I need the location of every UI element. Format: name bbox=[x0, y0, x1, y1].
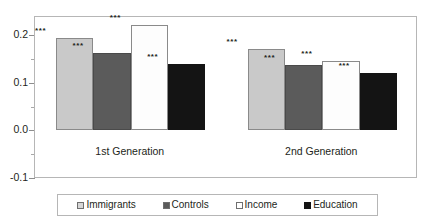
bar-2nd-generation-controls bbox=[285, 65, 322, 130]
legend-swatch-icon bbox=[77, 202, 84, 209]
significance-marker: *** bbox=[134, 53, 171, 61]
bar-chart: 0.20.10.0-0.1 ************************ 1… bbox=[0, 0, 432, 223]
legend-item-income[interactable]: Income bbox=[236, 200, 278, 210]
bar-1st-generation-education bbox=[168, 64, 205, 131]
y-tick-major bbox=[29, 178, 35, 179]
significance-marker: *** bbox=[251, 54, 288, 62]
y-tick-label-text: 0.0 bbox=[0, 124, 28, 135]
category-label-2nd-generation: 2nd Generation bbox=[226, 146, 418, 157]
bar-1st-generation-immigrants bbox=[56, 38, 93, 130]
significance-marker: *** bbox=[288, 50, 325, 58]
y-tick-label: 0.0 bbox=[0, 124, 28, 135]
y-tick-label-text: 0.1 bbox=[0, 77, 28, 88]
significance-marker: *** bbox=[59, 42, 96, 50]
bar-2nd-generation-education bbox=[360, 73, 397, 130]
legend-label: Immigrants bbox=[86, 200, 135, 210]
legend-swatch-icon bbox=[304, 202, 311, 209]
legend-swatch-icon bbox=[163, 202, 170, 209]
legend-item-immigrants[interactable]: Immigrants bbox=[77, 200, 135, 210]
significance-marker: *** bbox=[97, 14, 134, 22]
significance-marker: *** bbox=[214, 38, 251, 46]
y-tick-label: 0.1 bbox=[0, 77, 28, 88]
legend-swatch-icon bbox=[236, 202, 243, 209]
bar-1st-generation-income bbox=[131, 25, 168, 131]
legend-label: Income bbox=[245, 200, 278, 210]
legend-item-controls[interactable]: Controls bbox=[163, 200, 209, 210]
legend-label: Education bbox=[313, 200, 357, 210]
y-tick-label: -0.1 bbox=[0, 172, 28, 183]
legend-label: Controls bbox=[172, 200, 209, 210]
bar-1st-generation-controls bbox=[93, 53, 130, 130]
significance-marker: *** bbox=[326, 62, 363, 70]
legend-item-education[interactable]: Education bbox=[304, 200, 357, 210]
category-label-1st-generation: 1st Generation bbox=[34, 146, 226, 157]
bar-2nd-generation-income bbox=[322, 61, 359, 130]
significance-marker: *** bbox=[22, 27, 59, 35]
y-tick-label-text: -0.1 bbox=[0, 172, 28, 183]
chart-legend: ImmigrantsControlsIncomeEducation bbox=[57, 194, 378, 216]
